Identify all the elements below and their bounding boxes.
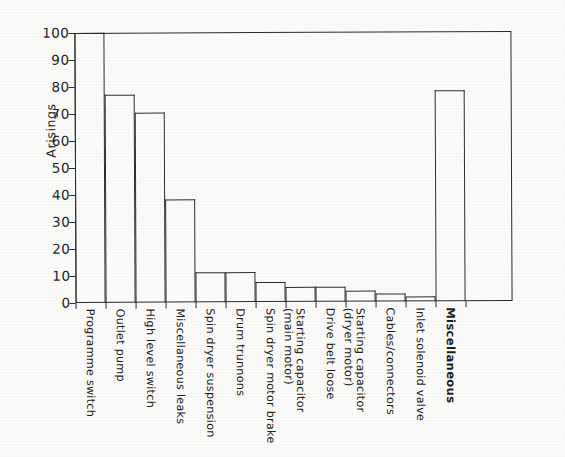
bar-series (74, 31, 512, 303)
y-axis-tick-label: 30 (52, 214, 70, 230)
bar (74, 33, 105, 303)
x-axis-category-label-line1: Drive belt loose (324, 308, 337, 400)
bar (195, 273, 225, 303)
x-axis-category-label-line2: (main motor) (282, 308, 294, 413)
y-axis-title: Arisings (43, 85, 58, 175)
bar (316, 287, 346, 302)
x-axis-label-group: Programme switchOutlet pumpHigh level sw… (76, 301, 514, 455)
y-axis-tick-label: 100 (42, 25, 69, 41)
x-axis-category-label: Starting capacitor(dryer motor) (342, 308, 366, 413)
x-axis-category-label-line1: Cables/connectors (384, 307, 397, 415)
x-axis-category-label-line1: Spin dryer motor brake (264, 308, 278, 444)
bar (225, 272, 255, 302)
x-axis-category-label: Spin dryer motor brake (264, 308, 276, 444)
bar (135, 112, 166, 302)
y-axis-tick-label: 40 (52, 187, 70, 203)
bar (105, 95, 136, 303)
x-axis-category-label-line1: Programme switch (84, 309, 97, 417)
x-axis-tick-group (0, 0, 564, 1)
y-axis-tick-label: 20 (52, 241, 70, 257)
y-axis-tick-group: 0102030405060708090100 (0, 0, 564, 1)
x-axis-category-label: Drive belt loose (324, 308, 336, 400)
x-axis-category-label: Inlet solenoid valve (414, 307, 426, 421)
x-axis-category-label: Starting capacitor(main motor) (282, 308, 306, 413)
x-axis-category-label: Spin dryer suspension (204, 308, 216, 437)
y-axis-tick-label: 0 (61, 295, 70, 311)
x-axis-category-label-line1: Drum trunnons (234, 308, 247, 396)
bar (255, 282, 285, 302)
x-axis-category-label-line1: Spin dryer suspension (204, 308, 218, 437)
x-axis-category-label-line1: Starting capacitor (354, 308, 367, 413)
bar (346, 291, 376, 302)
x-axis-category-label: Programme switch (84, 309, 96, 417)
y-axis-tick-label: 10 (52, 268, 70, 284)
bar (165, 200, 195, 303)
x-axis-category-label-line1: Miscellaneous leaks (174, 308, 188, 424)
bar (376, 293, 406, 301)
x-axis-category-label-line1: Outlet pump (114, 309, 127, 382)
x-axis-category-label: Outlet pump (114, 309, 126, 382)
bar (286, 287, 316, 302)
x-axis-category-label: Drum trunnons (234, 308, 246, 396)
x-axis-category-label-line2: (dryer motor) (342, 308, 354, 413)
x-axis-category-label-line1: High level switch (144, 309, 157, 408)
x-axis-category-label-line1: Starting capacitor (294, 308, 307, 413)
y-axis-tick-label: 90 (51, 52, 69, 68)
x-axis-category-label: Miscellaneous (444, 307, 456, 403)
chart-canvas: 0102030405060708090100 Arisings Programm… (0, 0, 565, 457)
chart-page: 0102030405060708090100 Arisings Programm… (0, 0, 565, 457)
x-axis-category-label-line1: Inlet solenoid valve (414, 307, 427, 421)
x-axis-category-label-line1: Miscellaneous (444, 307, 458, 403)
bar (435, 91, 466, 302)
x-axis-category-label: High level switch (144, 309, 156, 408)
x-axis-category-label: Cables/connectors (384, 307, 396, 415)
x-axis-category-label: Miscellaneous leaks (174, 308, 186, 424)
